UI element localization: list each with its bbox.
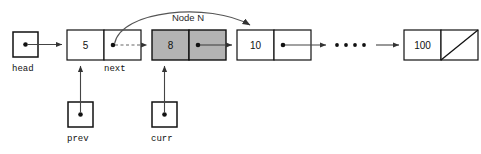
node-10-value: 10 (250, 40, 262, 51)
head-pointer-dot (23, 42, 28, 47)
list-continues-ellipsis (335, 43, 399, 47)
node-100: 100 (404, 30, 478, 60)
pointer-prev: prev (67, 66, 93, 144)
prev-label: prev (67, 134, 89, 144)
ellipsis-dot-3 (353, 43, 357, 47)
ellipsis-dot-4 (362, 43, 366, 47)
node-8-next-dot (196, 43, 201, 48)
ellipsis-dot-1 (335, 43, 339, 47)
pointer-head: head (12, 32, 62, 74)
head-label: head (12, 64, 34, 74)
curr-pointer-dot (162, 112, 167, 117)
node-10: 10 (237, 30, 326, 60)
linked-list-diagram-svg: head 5 next Node N 8 10 (0, 0, 481, 154)
linked-list-diagram-canvas: head 5 next Node N 8 10 (0, 0, 481, 154)
node-n-annotation-label: Node N (172, 12, 204, 23)
node-10-next-dot (281, 43, 286, 48)
pointer-curr: curr (151, 66, 177, 144)
node-8: 8 (152, 30, 232, 60)
node-100-value: 100 (414, 40, 431, 51)
prev-pointer-dot (78, 112, 83, 117)
next-label: next (104, 64, 126, 74)
curr-label: curr (151, 134, 173, 144)
node-8-value: 8 (168, 40, 174, 51)
ellipsis-dot-2 (344, 43, 348, 47)
node-5: 5 next (67, 30, 147, 74)
node-5-value: 5 (83, 40, 89, 51)
